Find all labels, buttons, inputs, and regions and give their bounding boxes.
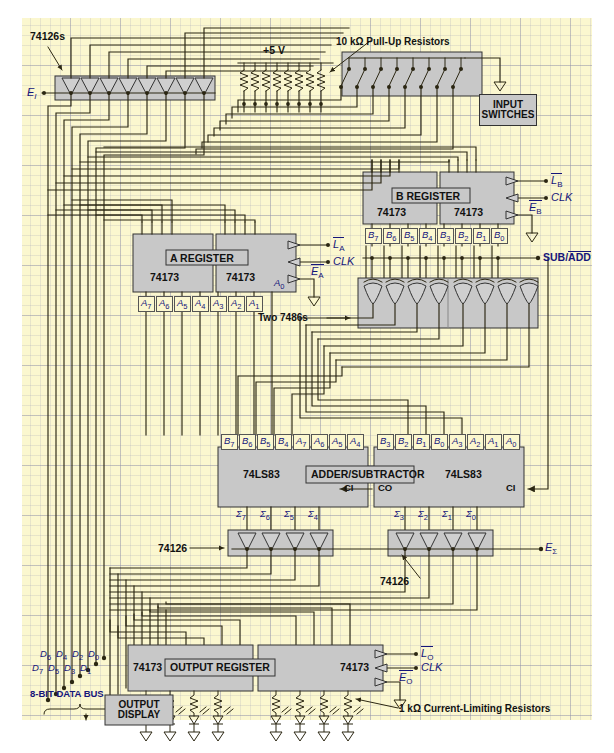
output-display-box: OUTPUT DISPLAY (105, 695, 173, 725)
input-switches-line2: SWITCHES (482, 110, 535, 121)
a-register-control-clk: CLK (333, 255, 354, 267)
bus-label-d4: D4 (56, 648, 67, 662)
a-register-control-la: LA (333, 237, 344, 253)
bit-label-b0: B0 (491, 228, 508, 244)
adder-in-b2: B2 (395, 434, 412, 450)
b-register-control-lb: LB (551, 173, 562, 189)
label-two-7486s: Two 7486s (258, 312, 308, 323)
a-register-bit-labels: A7 A6 A5 A4 A3 A2 A1 (136, 296, 286, 310)
sum-label-s7: Σ7 (236, 508, 246, 522)
diagram-canvas: 74126s EI +5 V 10 kΩ Pull-Up Resistors I… (0, 0, 614, 753)
adder-in-b3: B3 (377, 434, 394, 450)
bit-label-a4: A4 (192, 296, 209, 312)
adder-in-a3: A3 (449, 434, 466, 450)
bit-label-a6: A6 (156, 296, 173, 312)
adder-in-b5: B5 (257, 434, 274, 450)
output-register-chip-right: 74173 (340, 661, 369, 673)
adder-sum-labels-right: Σ3 Σ2 Σ1 Σ0 (394, 508, 514, 522)
adder-chip-right: 74LS83 (445, 468, 482, 480)
label-e-sigma: EΣ (545, 541, 557, 556)
label-current-limiting-resistors: 1 kΩ Current-Limiting Resistors (399, 703, 550, 714)
output-register-control-eo: EO (399, 670, 413, 686)
adder-in-b0: B0 (431, 434, 448, 450)
adder-in-b4: B4 (275, 434, 292, 450)
adder-input-labels-left: B7 B6 B5 B4 A7 A6 A5 A4 (219, 434, 371, 448)
b-register-title: B REGISTER (396, 190, 460, 202)
adder-input-labels-right: B3 B2 B1 B0 A3 A2 A1 A0 (375, 434, 527, 448)
adder-in-a7: A7 (293, 434, 310, 450)
sum-label-s3: Σ3 (394, 508, 404, 522)
adder-carry-out-left: CO (378, 482, 392, 493)
sum-label-s4: Σ4 (308, 508, 318, 522)
bus-label-d7: D7 (32, 662, 43, 676)
a-register-chip-right: 74173 (226, 271, 255, 283)
bit-label-b1: B1 (473, 228, 490, 244)
bit-label-b5: B5 (401, 228, 418, 244)
adder-in-a4: A4 (347, 434, 364, 450)
sum-label-s0: Σ0 (466, 508, 476, 522)
bus-label-d6: D6 (40, 648, 51, 662)
adder-in-b7: B7 (221, 434, 238, 450)
bit-label-b6: B6 (383, 228, 400, 244)
output-register-chip-left: 74173 (133, 661, 162, 673)
label-e-in: EI (27, 86, 37, 101)
b-register-chip-right: 74173 (454, 206, 483, 218)
e-in-subscript: I (34, 92, 36, 101)
bus-label-d1: D1 (80, 662, 91, 676)
adder-carry-in-right: CI (506, 482, 516, 493)
bus-label-d2: D2 (72, 648, 83, 662)
bit-label-b2: B2 (455, 228, 472, 244)
bit-label-a3: A3 (210, 296, 227, 312)
xor-gate-bank-7486 (300, 278, 538, 367)
bit-label-a7: A7 (138, 296, 155, 312)
e-sigma-subscript: Σ (552, 547, 557, 556)
b-register-control-eb: EB (529, 200, 542, 216)
label-supply-voltage: +5 V (263, 44, 285, 56)
adder-in-a5: A5 (329, 434, 346, 450)
label-74126s-input: 74126s (30, 30, 65, 42)
output-register-control-clk: CLK (421, 661, 442, 673)
bus-label-d3: D3 (64, 662, 75, 676)
adder-title: ADDER/SUBTRACTOR (311, 468, 425, 480)
adder-sum-labels-left: Σ7 Σ6 Σ5 Σ4 (236, 508, 356, 522)
bit-label-a2: A2 (228, 296, 245, 312)
adder-in-a1: A1 (485, 434, 502, 450)
output-register-title: OUTPUT REGISTER (170, 661, 270, 673)
data-bus-bottom-labels: D7 D5 D3 D1 (32, 662, 122, 676)
sum-label-s6: Σ6 (260, 508, 270, 522)
bit-label-a5: A5 (174, 296, 191, 312)
a-register-chip-left: 74173 (150, 271, 179, 283)
adder-chip-left: 74LS83 (243, 468, 280, 480)
label-74126-sum-left: 74126 (158, 542, 187, 554)
switch-to-buffer-routing (71, 28, 349, 78)
input-switch-bank[interactable] (196, 41, 506, 154)
a-register-extra-bit-a0: A0 (274, 277, 285, 291)
adder-in-b1: B1 (413, 434, 430, 450)
b-register-bit-labels: B7 B6 B5 B4 B3 B2 B1 B0 (363, 228, 513, 242)
b-register-chip-left: 74173 (377, 206, 406, 218)
adder-in-a2: A2 (467, 434, 484, 450)
data-bus-top-labels: D6 D4 D2 D0 (40, 648, 130, 662)
sum-label-s1: Σ1 (442, 508, 452, 522)
adder-in-b6: B6 (239, 434, 256, 450)
sum-label-s2: Σ2 (418, 508, 428, 522)
adder-in-a6: A6 (311, 434, 328, 450)
sum-buffer-to-bus (110, 551, 477, 610)
output-display-line2: DISPLAY (118, 710, 160, 721)
bus-label-d5: D5 (48, 662, 59, 676)
output-register-control-lo: LO (421, 646, 433, 662)
bus-label-d0: D0 (88, 648, 99, 662)
bit-label-b7: B7 (365, 228, 382, 244)
sum-buffer-bank-left-74126 (190, 530, 333, 556)
adder-in-a0: A0 (503, 434, 520, 450)
label-data-bus: 8-BIT DATA BUS (30, 688, 104, 699)
b-register-control-clk: CLK (551, 191, 572, 203)
bus-to-output-register (110, 602, 350, 645)
bit-label-b3: B3 (437, 228, 454, 244)
adder-carry-in-left: CI (344, 482, 354, 493)
input-switches-box: INPUT SWITCHES (479, 94, 537, 126)
pullup-resistor-bank (238, 63, 333, 112)
bit-label-a1: A1 (246, 296, 263, 312)
a-register-title: A REGISTER (170, 252, 234, 264)
label-sub-add: SUB/ADD (543, 251, 591, 264)
